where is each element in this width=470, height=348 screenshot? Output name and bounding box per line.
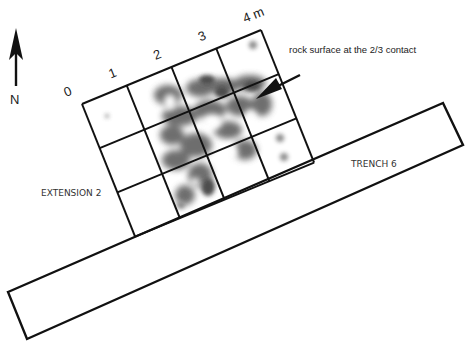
scale-tick-label: 3 (196, 28, 208, 45)
scale-tick-label: 2 (151, 46, 163, 63)
trench-6-outline (8, 103, 463, 339)
scale-tick-label: 4 m (241, 4, 267, 26)
scale-tick-label: 1 (106, 65, 118, 82)
scale-tick-label: 0 (62, 83, 74, 100)
north-label: N (10, 92, 19, 107)
extension-2-grid (82, 30, 314, 237)
annotation-label: rock surface at the 2/3 contact (289, 44, 417, 55)
excavation-plan: N (0, 0, 470, 348)
trench-6-label: TRENCH 6 (350, 159, 397, 169)
north-arrow: N (9, 28, 23, 107)
extension-2-label: EXTENSION 2 (41, 188, 101, 198)
grid-line-col-0 (82, 104, 135, 237)
